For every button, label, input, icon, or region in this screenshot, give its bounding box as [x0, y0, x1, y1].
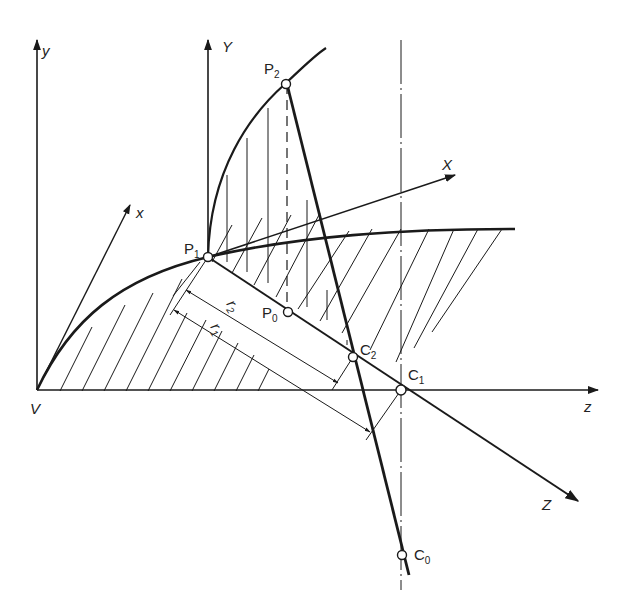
dimension-r1 — [174, 310, 370, 432]
label-upper-y: Y — [222, 38, 233, 55]
label-lower-z: Z — [541, 496, 552, 513]
label-z: z — [583, 398, 592, 415]
point-p0 — [284, 308, 293, 317]
label-r2: r2 — [222, 297, 244, 316]
label-c1: C1 — [408, 366, 425, 386]
label-p2: P2 — [264, 60, 280, 80]
label-p1: P1 — [184, 240, 200, 260]
point-p2 — [282, 80, 291, 89]
point-c0 — [398, 551, 407, 560]
label-c0: C0 — [414, 546, 431, 566]
construction-diagram: y x V z Y X Z P1 P2 P0 C2 C1 C0 r2 r1 — [0, 0, 627, 604]
point-p1 — [204, 253, 213, 262]
upper-x-axis — [208, 175, 455, 257]
label-upper-x: X — [441, 156, 453, 173]
label-p0: P0 — [262, 304, 278, 324]
point-c2 — [349, 353, 358, 362]
label-origin-v: V — [30, 400, 42, 417]
point-c1 — [396, 385, 406, 395]
label-left-y: y — [41, 42, 51, 59]
label-r1: r1 — [206, 320, 228, 339]
second-curve — [208, 48, 326, 257]
label-left-x: x — [135, 204, 144, 221]
line-p2-c0 — [287, 84, 409, 575]
